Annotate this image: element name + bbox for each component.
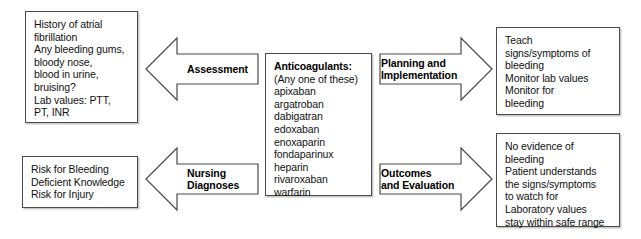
outcomes-evaluation-arrow-label: Outcomes and Evaluation <box>381 167 454 192</box>
nursing-diagnoses-text: Risk for Bleeding Deficient Knowledge Ri… <box>23 157 137 201</box>
planning-implementation-arrow-label: Planning and Implementation <box>381 57 457 82</box>
outcomes-results-text: No evidence of bleeding Patient understa… <box>497 134 619 228</box>
nursing-diagnoses-box: Risk for Bleeding Deficient Knowledge Ri… <box>22 156 138 208</box>
assessment-arrow-label: Assessment <box>187 63 248 75</box>
assessment-arrow: Assessment <box>145 35 259 103</box>
planning-implementation-arrow: Planning and Implementation <box>379 35 493 103</box>
outcomes-evaluation-arrow: Outcomes and Evaluation <box>379 145 493 213</box>
nursing-diagnoses-arrow: Nursing Diagnoses <box>145 145 259 213</box>
medications-heading: Anticoagulants: <box>266 54 371 73</box>
medications-drug-list: apixaban argatroban dabigatran edoxaban … <box>266 85 371 198</box>
nursing-diagnoses-arrow-label: Nursing Diagnoses <box>187 167 239 192</box>
assessment-data-box: History of atrial fibrillation Any bleed… <box>25 11 138 123</box>
concept-map-diagram: History of atrial fibrillation Any bleed… <box>0 0 641 239</box>
outcomes-results-box: No evidence of bleeding Patient understa… <box>496 133 620 227</box>
medications-subheading: (Any one of these) <box>266 73 371 86</box>
assessment-data-text: History of atrial fibrillation Any bleed… <box>26 12 137 119</box>
medications-box: Anticoagulants: (Any one of these) apixa… <box>265 53 372 196</box>
planning-actions-box: Teach signs/symptoms of bleeding Monitor… <box>496 27 620 115</box>
planning-actions-text: Teach signs/symptoms of bleeding Monitor… <box>497 28 619 110</box>
